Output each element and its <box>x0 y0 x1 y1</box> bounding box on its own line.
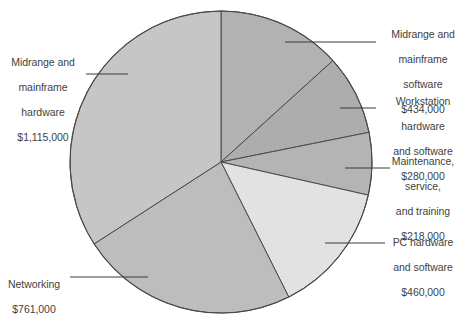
callout-line-1: PC hardware <box>378 236 468 249</box>
callout-pc-hardware-software: PC hardware and software $460,000 <box>378 223 468 311</box>
callout-line-1: Midrange and <box>2 56 84 69</box>
callout-networking: Networking $761,000 <box>0 265 68 328</box>
callout-line-2: mainframe <box>378 53 468 66</box>
callout-value: $761,000 <box>0 303 68 316</box>
callout-line-1: Midrange and <box>378 28 468 41</box>
callout-value: $1,115,000 <box>2 131 84 144</box>
callout-value: $460,000 <box>378 286 468 299</box>
pie-slices-group <box>70 11 372 313</box>
callout-line-2: and software <box>378 261 468 274</box>
callout-line-3: hardware <box>2 106 84 119</box>
pie-chart-figure: Midrange and mainframe software $434,000… <box>0 0 469 328</box>
callout-line-3: and training <box>378 205 468 218</box>
callout-midrange-mainframe-hardware: Midrange and mainframe hardware $1,115,0… <box>2 43 84 156</box>
callout-line-1: Maintenance, <box>378 155 468 168</box>
callout-line-2: service, <box>378 180 468 193</box>
callout-line-2: mainframe <box>2 81 84 94</box>
callout-line-2: hardware <box>378 120 468 133</box>
callout-line-1: Workstation <box>378 95 468 108</box>
callout-line-1: Networking <box>0 278 68 291</box>
